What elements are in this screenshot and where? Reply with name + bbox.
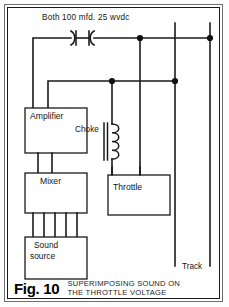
capacitor-note-label: Both 100 mfd. 25 wvdc bbox=[42, 14, 130, 22]
figure-caption: Fig. 10 SUPERIMPOSING SOUND ON THE THROT… bbox=[14, 279, 214, 298]
throttle-block-outline bbox=[108, 175, 170, 215]
track-label: Track bbox=[182, 263, 202, 271]
figure-caption-text: SUPERIMPOSING SOUND ON THE THROTTLE VOLT… bbox=[67, 279, 180, 298]
figure-caption-line-1: SUPERIMPOSING SOUND ON bbox=[67, 279, 180, 288]
figure-page: Both 100 mfd. 25 wvdc Amplifier Choke Mi… bbox=[0, 0, 229, 307]
junction-dots bbox=[109, 35, 213, 84]
choke-label: Choke bbox=[75, 125, 99, 133]
junction-dot-top-rail-a bbox=[137, 35, 143, 41]
figure-caption-line-2: THE THROTTLE VOLTAGE bbox=[67, 288, 180, 297]
choke-coil bbox=[112, 124, 119, 159]
mixer-block-label: Mixer bbox=[40, 177, 61, 186]
junction-dot-choke-node bbox=[109, 78, 115, 84]
wire-amplifier-top-outer bbox=[33, 38, 71, 108]
junction-dot-mid-rail-b bbox=[172, 78, 178, 84]
throttle-block-label: Throttle bbox=[113, 183, 142, 192]
amplifier-block-label: Amplifier bbox=[30, 112, 63, 121]
sound-source-label-line2: source bbox=[30, 252, 55, 260]
junction-dot-top-rail-c bbox=[207, 35, 213, 41]
sound-source-label-line1: Sound bbox=[34, 241, 58, 249]
figure-number: Fig. 10 bbox=[14, 280, 59, 297]
